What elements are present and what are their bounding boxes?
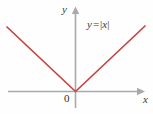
y-axis [72, 7, 79, 109]
y-axis-arrowhead [72, 7, 79, 15]
equation-equals-sign: = [92, 18, 100, 30]
y-axis-label: y [62, 4, 67, 15]
plot-canvas [0, 0, 153, 114]
origin-label: 0 [64, 93, 70, 104]
curve-equation-label: y=|x| [87, 19, 109, 30]
x-axis-label: x [143, 94, 148, 105]
absolute-value-graph-figure: y x 0 y=|x| [0, 0, 153, 114]
equation-abs-bar-close: | [107, 18, 109, 30]
